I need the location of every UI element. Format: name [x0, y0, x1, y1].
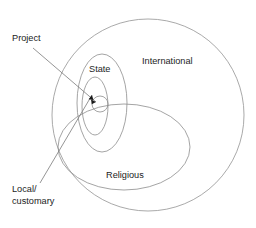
local-customary-leader-line [40, 95, 92, 183]
label-international: International [142, 56, 193, 66]
local-customary-arrowhead-icon [89, 95, 94, 100]
label-local-customary-line2: customary [12, 196, 55, 206]
ring-project [92, 96, 108, 112]
label-state: State [89, 64, 110, 74]
diagram-canvas: International State Religious Project Lo… [0, 0, 256, 228]
label-project: Project [12, 33, 41, 43]
ring-international [52, 19, 244, 211]
label-religious: Religious [106, 170, 144, 180]
label-local-customary-line1: Local/ [12, 184, 37, 194]
venn-diagram: International State Religious Project Lo… [0, 0, 256, 228]
project-leader-line [33, 48, 96, 102]
